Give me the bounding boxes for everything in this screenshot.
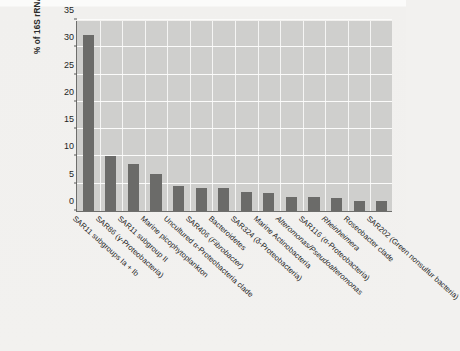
y-tick-label-10: 10 [40, 141, 74, 151]
bar [105, 156, 116, 211]
y-tick-label-5: 5 [40, 169, 74, 179]
bar [241, 192, 252, 211]
bar [218, 188, 229, 211]
bar [150, 174, 161, 211]
y-tick-label-20: 20 [40, 87, 74, 97]
bar [354, 201, 365, 211]
bar [196, 188, 207, 211]
bar [286, 197, 297, 211]
y-tick-label-30: 30 [40, 32, 74, 42]
bar [308, 197, 319, 211]
y-tick-mark-35 [74, 19, 77, 20]
y-tick-label-15: 15 [40, 114, 74, 124]
x-axis-tick-label: SAR202 (Green nonsulfur bacteria) [365, 214, 460, 301]
bar [83, 35, 94, 211]
bar [331, 198, 342, 211]
y-tick-label-0: 0 [40, 196, 74, 206]
bars-group [77, 21, 392, 211]
y-tick-label-25: 25 [40, 60, 74, 70]
bar [263, 193, 274, 211]
bar [376, 201, 387, 211]
bar [173, 186, 184, 211]
bar [128, 164, 139, 211]
gridline-35 [77, 19, 392, 20]
y-tick-label-35: 35 [40, 5, 74, 15]
plot-area: 05101520253035 [76, 21, 392, 212]
x-axis-labels: SAR11 subgroups Ia + IbSAR86 (γ-Proteoba… [76, 214, 406, 351]
